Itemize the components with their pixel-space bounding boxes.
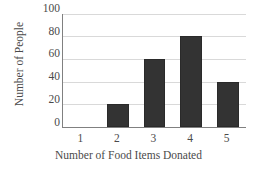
y-tick-label: 20 <box>30 93 60 104</box>
y-tick-label: 40 <box>30 71 60 82</box>
x-tick-label: 3 <box>135 132 172 145</box>
x-axis-tick-labels: 1 2 3 4 5 <box>62 132 245 145</box>
y-axis-title: Number of People <box>13 4 25 124</box>
bar-chart-figure: Number of People 100 80 60 40 20 0 1 2 3… <box>0 0 257 170</box>
y-axis-tick-labels: 100 80 60 40 20 0 <box>30 8 60 130</box>
y-tick-label: 100 <box>30 3 60 14</box>
x-tick-label: 2 <box>99 132 136 145</box>
bar-slot <box>173 14 210 128</box>
x-tick-label: 4 <box>172 132 209 145</box>
x-axis-title: Number of Food Items Donated <box>0 149 257 162</box>
plot-area <box>62 14 246 129</box>
bar <box>217 82 239 127</box>
bar-slot <box>63 14 100 128</box>
bar <box>180 36 202 127</box>
bar-slot <box>136 14 173 128</box>
x-tick-label: 1 <box>62 132 99 145</box>
bar-series <box>63 14 246 128</box>
x-tick-label: 5 <box>208 132 245 145</box>
y-tick-label: 60 <box>30 48 60 59</box>
y-tick-label: 0 <box>30 116 60 127</box>
bar-slot <box>100 14 137 128</box>
bar-slot <box>209 14 246 128</box>
bar <box>144 59 166 127</box>
bar <box>107 104 129 127</box>
y-tick-label: 80 <box>30 25 60 36</box>
